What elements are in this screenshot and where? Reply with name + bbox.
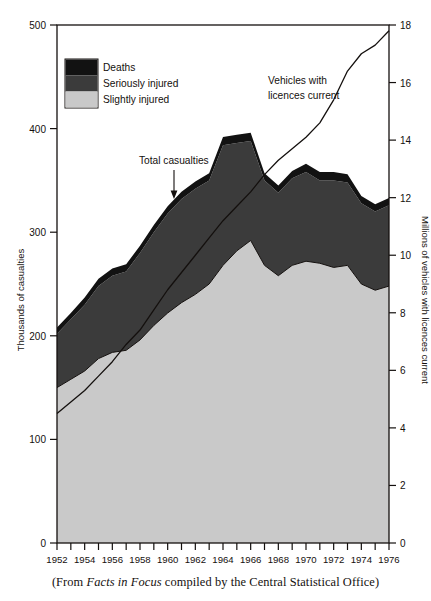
legend-swatch-seriously-injured bbox=[66, 76, 98, 92]
casualties-vehicles-chart: 0100200300400500 024681012141618 1952195… bbox=[0, 0, 431, 601]
x-tick-label: 1952 bbox=[46, 554, 67, 565]
caption-suffix: compiled by the Central Statistical Offi… bbox=[162, 575, 380, 589]
x-tick-label: 1964 bbox=[212, 554, 234, 565]
x-axis-ticks: 1952195419561958196019621964196619681970… bbox=[46, 543, 399, 565]
right-tick-label: 14 bbox=[400, 135, 412, 146]
legend-label-deaths: Deaths bbox=[103, 62, 135, 73]
right-tick-label: 0 bbox=[400, 538, 406, 549]
x-tick-label: 1962 bbox=[185, 554, 206, 565]
figure-root: 0100200300400500 024681012141618 1952195… bbox=[0, 0, 431, 601]
x-tick-label: 1958 bbox=[129, 554, 150, 565]
x-tick-label: 1970 bbox=[295, 554, 316, 565]
legend-swatch-deaths bbox=[66, 60, 98, 76]
right-tick-label: 2 bbox=[400, 480, 406, 491]
left-tick-label: 300 bbox=[29, 227, 46, 238]
right-tick-label: 18 bbox=[400, 20, 412, 31]
left-tick-label: 200 bbox=[29, 331, 46, 342]
vehicles-label-line1: Vehicles with bbox=[268, 75, 327, 86]
left-tick-label: 100 bbox=[29, 434, 46, 445]
x-tick-label: 1976 bbox=[378, 554, 399, 565]
legend-label-slightly-injured: Slightly injured bbox=[103, 94, 170, 105]
right-tick-label: 6 bbox=[400, 365, 406, 376]
legend-swatch-slightly-injured bbox=[66, 92, 98, 108]
x-tick-label: 1974 bbox=[351, 554, 373, 565]
right-axis-title: Millions of vehicles with licences curre… bbox=[420, 216, 431, 384]
right-axis-ticks: 024681012141618 bbox=[389, 20, 412, 549]
left-tick-label: 400 bbox=[29, 124, 46, 135]
total-casualties-label: Total casualties bbox=[139, 155, 209, 166]
x-tick-label: 1954 bbox=[74, 554, 96, 565]
left-tick-label: 500 bbox=[29, 20, 46, 31]
figure-caption: (From Facts in Focus compiled by the Cen… bbox=[0, 575, 431, 590]
legend-label-seriously-injured: Seriously injured bbox=[103, 78, 179, 89]
right-tick-label: 10 bbox=[400, 250, 412, 261]
caption-source-title: Facts in Focus bbox=[87, 575, 162, 589]
right-tick-label: 12 bbox=[400, 193, 412, 204]
x-tick-label: 1966 bbox=[240, 554, 261, 565]
left-axis-ticks: 0100200300400500 bbox=[29, 20, 57, 549]
x-tick-label: 1968 bbox=[268, 554, 289, 565]
caption-prefix: (From bbox=[52, 575, 87, 589]
vehicles-label-line2: licences current bbox=[268, 90, 340, 101]
left-tick-label: 0 bbox=[40, 538, 46, 549]
right-tick-label: 4 bbox=[400, 423, 406, 434]
left-axis-title: Thousands of casualties bbox=[15, 249, 26, 352]
right-tick-label: 16 bbox=[400, 78, 412, 89]
x-tick-label: 1972 bbox=[323, 554, 344, 565]
right-tick-label: 8 bbox=[400, 308, 406, 319]
x-tick-label: 1960 bbox=[157, 554, 178, 565]
x-tick-label: 1956 bbox=[102, 554, 123, 565]
